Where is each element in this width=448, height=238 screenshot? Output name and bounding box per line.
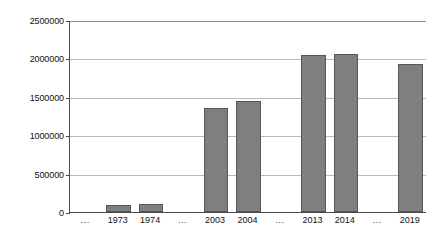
bar-slot: [200, 21, 232, 212]
y-axis-tick-label: 2000000: [30, 55, 64, 64]
x-axis-tick-label: 2013: [296, 215, 328, 226]
y-axis-tick-mark: [66, 213, 70, 214]
bar-slot: [330, 21, 362, 212]
x-axis-tick-label: 1973: [101, 215, 133, 226]
bar[interactable]: [106, 205, 131, 212]
bar-slot: [102, 21, 134, 212]
bar-slot: [297, 21, 329, 212]
x-axis-tick-label: 1974: [134, 215, 166, 226]
x-axis-tick-label: ...: [69, 215, 101, 226]
bar[interactable]: [398, 64, 423, 212]
bar[interactable]: [204, 108, 229, 212]
bars-layer: [70, 21, 426, 212]
bar-chart: 25000002000000150000010000005000000 ...1…: [0, 0, 448, 238]
y-axis-tick-label: 0: [59, 209, 64, 218]
bar-slot: [167, 21, 199, 212]
x-axis-tick-label: 2014: [329, 215, 361, 226]
bar-slot: [265, 21, 297, 212]
gridline: [70, 213, 426, 214]
x-axis-tick-label: 2004: [231, 215, 263, 226]
bar-slot: [395, 21, 427, 212]
x-axis-tick-label: 2003: [199, 215, 231, 226]
x-axis: ...19731974...20032004...20132014...2019: [69, 215, 426, 235]
x-axis-tick-label: ...: [264, 215, 296, 226]
bar-slot: [232, 21, 264, 212]
plot-area: [69, 21, 426, 213]
bar-slot: [135, 21, 167, 212]
y-axis-tick-label: 1000000: [30, 132, 64, 141]
x-axis-tick-label: ...: [361, 215, 393, 226]
bar[interactable]: [301, 55, 326, 212]
x-axis-tick-label: ...: [166, 215, 198, 226]
y-axis-tick-label: 1500000: [30, 93, 64, 102]
bar[interactable]: [236, 101, 261, 212]
bar[interactable]: [139, 204, 164, 212]
bar[interactable]: [334, 54, 359, 212]
bar-slot: [70, 21, 102, 212]
y-axis-tick-label: 500000: [35, 170, 64, 179]
bar-slot: [362, 21, 394, 212]
x-axis-tick-label: 2019: [394, 215, 426, 226]
y-axis: 25000002000000150000010000005000000: [0, 0, 68, 238]
y-axis-tick-label: 2500000: [30, 17, 64, 26]
